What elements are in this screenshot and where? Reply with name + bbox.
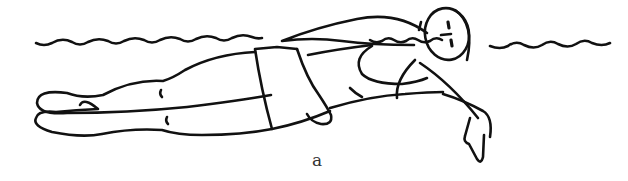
water-surface-middle xyxy=(370,38,442,42)
nose xyxy=(441,34,451,35)
shoulder xyxy=(359,46,427,84)
lower-leg xyxy=(35,102,272,136)
water-surface-right xyxy=(490,41,610,48)
trunks xyxy=(255,47,330,129)
eye-left xyxy=(448,22,449,28)
knee-mark-upper xyxy=(160,90,162,97)
upper-leg xyxy=(37,52,271,113)
bottom-arm-lower xyxy=(420,63,478,118)
torso-bottom xyxy=(330,92,443,108)
water-surface-left xyxy=(36,35,262,45)
figure-caption: a xyxy=(312,150,322,170)
knee-mark-lower xyxy=(166,117,168,124)
eye-right xyxy=(451,40,452,46)
swimmer-figure: a xyxy=(0,0,628,181)
hand xyxy=(465,118,485,162)
belly-mark xyxy=(350,88,362,97)
